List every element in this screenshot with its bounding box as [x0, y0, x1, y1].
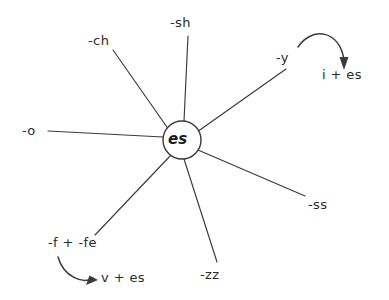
spoke-line-ss [198, 150, 305, 196]
transform-result-label-v-es: v + es [101, 271, 145, 284]
transform-curve-f-fe [58, 257, 93, 280]
spoke-line-sh [184, 36, 188, 121]
spoke-label-sh: -sh [170, 16, 191, 29]
spoke-label-o: -o [22, 124, 36, 137]
spoke-line-o [48, 131, 163, 137]
spoke-label-y: -y [276, 51, 289, 64]
spoke-line-y [197, 69, 286, 132]
spoke-line-zz [184, 159, 217, 262]
spoke-line-f-fe [95, 155, 171, 235]
spoke-line-ch [113, 50, 169, 130]
spoke-label-ch: -ch [88, 34, 109, 47]
spoke-label-zz: -zz [200, 268, 220, 281]
diagram-canvas: es -sh -ch -o -y -ss -zz -f + -fe i + es… [0, 0, 389, 300]
transform-arrowhead-f-fe [86, 276, 98, 286]
spoke-label-ss: -ss [308, 198, 327, 211]
spoke-label-f-fe: -f + -fe [48, 236, 97, 249]
hub-label: es [168, 132, 188, 147]
transform-curve-y [298, 34, 344, 60]
transform-result-label-i-es: i + es [322, 68, 362, 81]
radial-spoke-diagram [0, 0, 389, 300]
